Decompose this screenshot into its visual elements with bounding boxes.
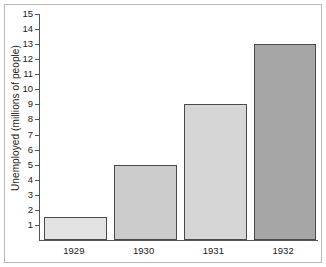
y-tick-label: 10 <box>22 84 33 94</box>
y-tick-mark <box>35 210 39 211</box>
bar-1932 <box>254 44 317 240</box>
y-tick-label: 8 <box>28 114 33 124</box>
y-tick-mark <box>35 29 39 30</box>
y-tick-mark <box>35 119 39 120</box>
x-axis-ticks: 1929193019311932 <box>39 244 318 260</box>
y-tick-mark <box>35 74 39 75</box>
y-tick-label: 11 <box>23 69 33 79</box>
bar-1929 <box>44 217 107 240</box>
y-tick-mark <box>35 44 39 45</box>
y-axis-title: Unemployed (millions of people) <box>9 0 23 238</box>
x-tick-label: 1932 <box>273 244 294 258</box>
x-tick-label: 1929 <box>63 244 84 258</box>
y-tick-label: 13 <box>22 39 33 49</box>
y-tick-mark <box>35 165 39 166</box>
y-tick-mark <box>35 135 39 136</box>
y-tick-mark <box>35 180 39 181</box>
y-tick-label: 2 <box>28 205 33 215</box>
x-tick-label: 1930 <box>133 244 154 258</box>
y-tick-label: 9 <box>28 99 33 109</box>
y-tick-label: 7 <box>28 130 33 140</box>
x-axis-line <box>39 240 318 241</box>
y-tick-mark <box>35 89 39 90</box>
y-tick-mark <box>35 59 39 60</box>
x-tick-label: 1931 <box>203 244 224 258</box>
y-axis-line <box>39 14 40 241</box>
y-tick-label: 12 <box>22 54 33 64</box>
bar-1930 <box>114 165 177 240</box>
y-tick-label: 6 <box>28 145 33 155</box>
y-tick-label: 1 <box>28 220 33 230</box>
y-tick-label: 5 <box>28 160 33 170</box>
y-tick-mark <box>35 225 39 226</box>
y-tick-label: 14 <box>22 24 33 34</box>
y-tick-label: 4 <box>28 175 33 185</box>
bar-1931 <box>184 104 247 240</box>
y-tick-mark <box>35 14 39 15</box>
y-tick-label: 3 <box>28 190 33 200</box>
y-tick-mark <box>35 104 39 105</box>
y-tick-label: 15 <box>22 9 33 19</box>
chart-figure: Unemployed (millions of people) 12345678… <box>0 0 326 267</box>
y-tick-mark <box>35 195 39 196</box>
plot-area: 123456789101112131415 <box>39 14 318 240</box>
y-tick-mark <box>35 150 39 151</box>
